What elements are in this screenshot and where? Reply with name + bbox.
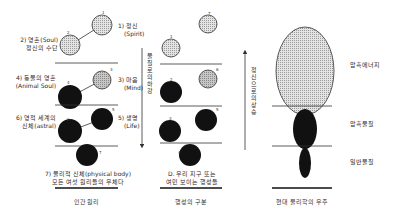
planet-number-3: 3 bbox=[169, 117, 172, 121]
planet-circle-5 bbox=[195, 109, 217, 131]
astral-label: 6) 영적 세계의 신체(astral) bbox=[6, 114, 56, 130]
number-6: 6 bbox=[67, 118, 70, 122]
planet-number-4: 4 bbox=[178, 151, 181, 155]
astral-label-line1: 6) 영적 세계의 bbox=[6, 114, 56, 122]
mind-circle bbox=[93, 71, 111, 89]
planet-circle-7 bbox=[199, 15, 217, 33]
diagram: 2) 영혼(Soul) 정신의 수단 1) 정신 (Spirit) 4) 동물의… bbox=[0, 0, 395, 217]
life-circle bbox=[91, 108, 113, 130]
soul-circle bbox=[60, 35, 80, 55]
astral-label-line2: 신체(astral) bbox=[6, 122, 56, 130]
planet-circle-4 bbox=[179, 144, 201, 166]
planet-number-2: 2 bbox=[170, 78, 173, 82]
life-label: 5) 생명 (Life) bbox=[118, 114, 140, 130]
dark-matter-ellipse bbox=[293, 109, 317, 149]
planet-caption: D. 우리 지구 또는 여민 보이는 행성들 bbox=[162, 170, 222, 186]
planet-circle-1 bbox=[162, 39, 180, 57]
planet-circle-6 bbox=[199, 70, 217, 88]
planet-circle-2 bbox=[160, 81, 182, 103]
planet-circle-3 bbox=[159, 120, 181, 142]
planet-divisions-graphic bbox=[142, 15, 222, 188]
animal-soul-label-line2: (Animal Soul) bbox=[6, 82, 56, 90]
life-label-line2: (Life) bbox=[118, 122, 140, 130]
number-4: 4 bbox=[67, 81, 70, 85]
human-principles-graphic bbox=[55, 15, 118, 188]
animal-soul-label: 4) 동물의 영혼 (Animal Soul) bbox=[6, 74, 56, 90]
ascent-label: 정신으로의 상승 bbox=[250, 66, 257, 115]
modern-universe-graphic bbox=[245, 27, 334, 188]
planet-number-6: 6 bbox=[216, 68, 219, 72]
ordinary-matter-ellipse bbox=[299, 148, 311, 178]
number-1: 1 bbox=[102, 11, 105, 15]
physical-body-label-line1: 7) 물리적 신체(physical body) bbox=[45, 170, 131, 178]
animal-soul-label-line1: 4) 동물의 영혼 bbox=[6, 74, 56, 82]
mind-label-line2: (Mind) bbox=[118, 84, 143, 92]
dark-energy-ellipse bbox=[276, 27, 334, 115]
planet-number-1: 1 bbox=[170, 35, 173, 39]
dark-matter-label: 암흑물질 bbox=[350, 120, 374, 128]
soul-label: 2) 영혼(Soul) 정신의 수단 bbox=[10, 36, 58, 52]
planet-number-7: 7 bbox=[208, 12, 211, 16]
mind-label-line1: 3) 마음 bbox=[118, 76, 143, 84]
dark-energy-label: 암흑에너지 bbox=[350, 61, 380, 69]
spirit-label-line1: 1) 정신 bbox=[118, 22, 144, 30]
physical-body-label: 7) 물리적 신체(physical body) 모든 여섯 원리들의 우체다 bbox=[45, 170, 131, 186]
physical-body-label-line2: 모든 여섯 원리들의 우체다 bbox=[45, 178, 131, 186]
spirit-circle bbox=[92, 15, 112, 35]
soul-label-line1: 2) 영혼(Soul) bbox=[10, 36, 58, 44]
modern-universe-title: 현대 물리학의 우주 bbox=[272, 197, 332, 206]
planet-caption-line1: D. 우리 지구 또는 bbox=[162, 170, 222, 178]
number-7: 7 bbox=[99, 151, 102, 155]
spirit-label-line2: (Spirit) bbox=[118, 30, 144, 38]
spirit-label: 1) 정신 (Spirit) bbox=[118, 22, 144, 38]
number-5: 5 bbox=[112, 108, 115, 112]
planet-caption-line2: 여민 보이는 행성들 bbox=[162, 178, 222, 186]
descent-label: 물질로의 하강 bbox=[146, 52, 153, 94]
ordinary-matter-label: 일반물질 bbox=[350, 158, 374, 166]
life-label-line1: 5) 생명 bbox=[118, 114, 140, 122]
physical-body-circle bbox=[76, 144, 98, 166]
planet-divisions-title: 행성의 구분 bbox=[160, 197, 222, 206]
mind-label: 3) 마음 (Mind) bbox=[118, 76, 143, 92]
number-2: 2 bbox=[67, 31, 70, 35]
human-principles-title: 인간 원리 bbox=[55, 197, 118, 206]
number-3: 3 bbox=[110, 68, 113, 72]
planet-number-5: 5 bbox=[216, 108, 219, 112]
soul-label-line2: 정신의 수단 bbox=[10, 44, 58, 52]
astral-circle bbox=[58, 119, 82, 143]
